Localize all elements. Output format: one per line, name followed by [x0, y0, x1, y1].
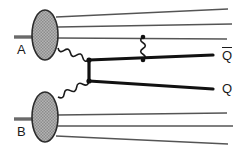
- quark-outgoing-line: [89, 81, 213, 89]
- lower-production-vertex: [86, 78, 91, 83]
- diagram-canvas: [0, 0, 251, 152]
- gluon-from-hadron-b: [58, 81, 89, 98]
- quark-label: Q: [222, 82, 232, 95]
- gluon-emission-point-top: [141, 35, 146, 40]
- spectator-line: [56, 9, 228, 17]
- antiquark-label: Q: [222, 47, 232, 62]
- hadron-b-label: B: [17, 125, 26, 138]
- spectator-line: [58, 24, 232, 27]
- hadron-b-blob: [32, 92, 58, 142]
- antiquark-glyph: Q: [222, 49, 232, 62]
- hadron-a-blob: [32, 10, 58, 60]
- spectator-lines-hadron-b: [56, 113, 233, 144]
- feynman-diagram-figure: A B Q Q: [0, 0, 251, 152]
- antiquark-outgoing-line: [89, 55, 213, 60]
- spectator-line: [57, 113, 227, 115]
- hadron-a-label: A: [17, 43, 26, 56]
- gluon-absorption-point: [141, 58, 146, 63]
- gluon-from-hadron-a: [58, 48, 89, 61]
- upper-production-vertex: [86, 57, 91, 62]
- spectator-line: [56, 136, 228, 144]
- spectator-lines-hadron-a: [56, 9, 232, 39]
